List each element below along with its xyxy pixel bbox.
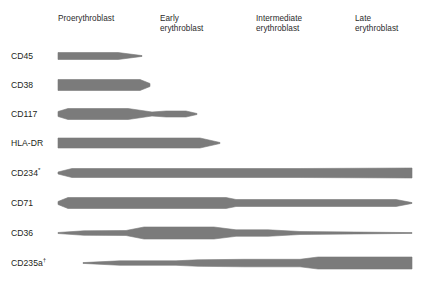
expression-band-cd234 [58, 168, 412, 178]
expression-band-cd117 [58, 109, 197, 120]
expression-band-cd71 [58, 198, 412, 209]
expression-bands-svg [0, 0, 423, 291]
expression-band-layer [0, 0, 423, 291]
expression-band-hla-dr [58, 138, 220, 148]
expression-band-cd235a [83, 257, 412, 269]
expression-band-cd36 [58, 227, 412, 239]
erythroid-marker-figure: Proerythroblast Early erythroblast Inter… [0, 0, 423, 291]
expression-band-cd38 [58, 80, 150, 91]
expression-band-cd45 [58, 53, 142, 60]
